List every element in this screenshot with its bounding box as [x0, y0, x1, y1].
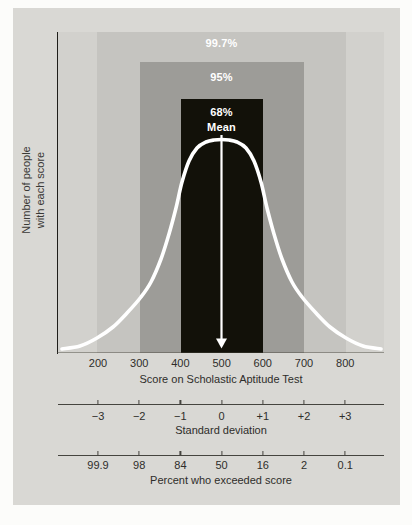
sd-axis-title: Standard deviation: [58, 424, 384, 436]
sd-tick-label-5: +2: [298, 410, 311, 422]
sd-tick-mark-1: [139, 400, 140, 405]
sd-tick-label-6: +3: [339, 410, 352, 422]
percent-tick-mark-5: [303, 451, 304, 456]
percent-tick-mark-0: [97, 451, 98, 456]
percent-tick-mark-2: [180, 451, 181, 456]
sd-tick-label-3: 0: [219, 410, 225, 422]
percent-tick-mark-4: [262, 451, 263, 456]
percent-tick-mark-6: [345, 451, 346, 456]
sd-tick-label-1: −2: [133, 410, 146, 422]
sat-tick-label-2: 400: [171, 357, 189, 369]
sat-axis-title: Score on Scholastic Aptitude Test: [58, 373, 384, 385]
percent-tick-label-0: 99.9: [87, 459, 108, 471]
sd-tick-label-2: −1: [174, 410, 187, 422]
sd-tick-mark-0: [97, 400, 98, 405]
sat-tick-label-5: 700: [295, 357, 313, 369]
sd-tick-mark-5: [303, 400, 304, 405]
mean-label: Mean: [207, 121, 236, 133]
sd-tick-mark-3: [221, 400, 222, 405]
percent-tick-label-3: 50: [215, 459, 227, 471]
sd-tick-label-0: −3: [92, 410, 105, 422]
percent-axis-title: Percent who exceeded score: [58, 474, 384, 486]
percent-tick-mark-3: [221, 451, 222, 456]
y-axis-label: Number of people with each score: [19, 131, 47, 249]
band-label-95: 95%: [210, 71, 233, 83]
percent-tick-label-6: 0.1: [338, 459, 353, 471]
y-axis-label-line2: with each score: [33, 131, 47, 249]
percent-tick-label-2: 84: [174, 459, 186, 471]
sat-tick-label-4: 600: [254, 357, 272, 369]
percent-tick-label-5: 2: [301, 459, 307, 471]
sd-tick-mark-4: [262, 400, 263, 405]
sd-tick-label-4: +1: [257, 410, 270, 422]
sat-tick-label-0: 200: [89, 357, 107, 369]
band-68: [181, 99, 263, 353]
band-label-68: 68%: [210, 106, 233, 118]
y-axis-line: [57, 32, 59, 354]
x-axis-line: [57, 352, 384, 353]
figure: 99.7% 95% 68% Mean Number of people with…: [0, 0, 412, 525]
percent-tick-label-4: 16: [257, 459, 269, 471]
sat-tick-label-6: 800: [336, 357, 354, 369]
sat-tick-label-3: 500: [212, 357, 230, 369]
sat-tick-label-1: 300: [130, 357, 148, 369]
sd-tick-mark-6: [345, 400, 346, 405]
percent-tick-label-1: 98: [133, 459, 145, 471]
band-label-99-7: 99.7%: [205, 37, 237, 49]
y-axis-label-line1: Number of people: [19, 131, 33, 249]
percent-tick-mark-1: [139, 451, 140, 456]
sd-tick-mark-2: [180, 400, 181, 405]
